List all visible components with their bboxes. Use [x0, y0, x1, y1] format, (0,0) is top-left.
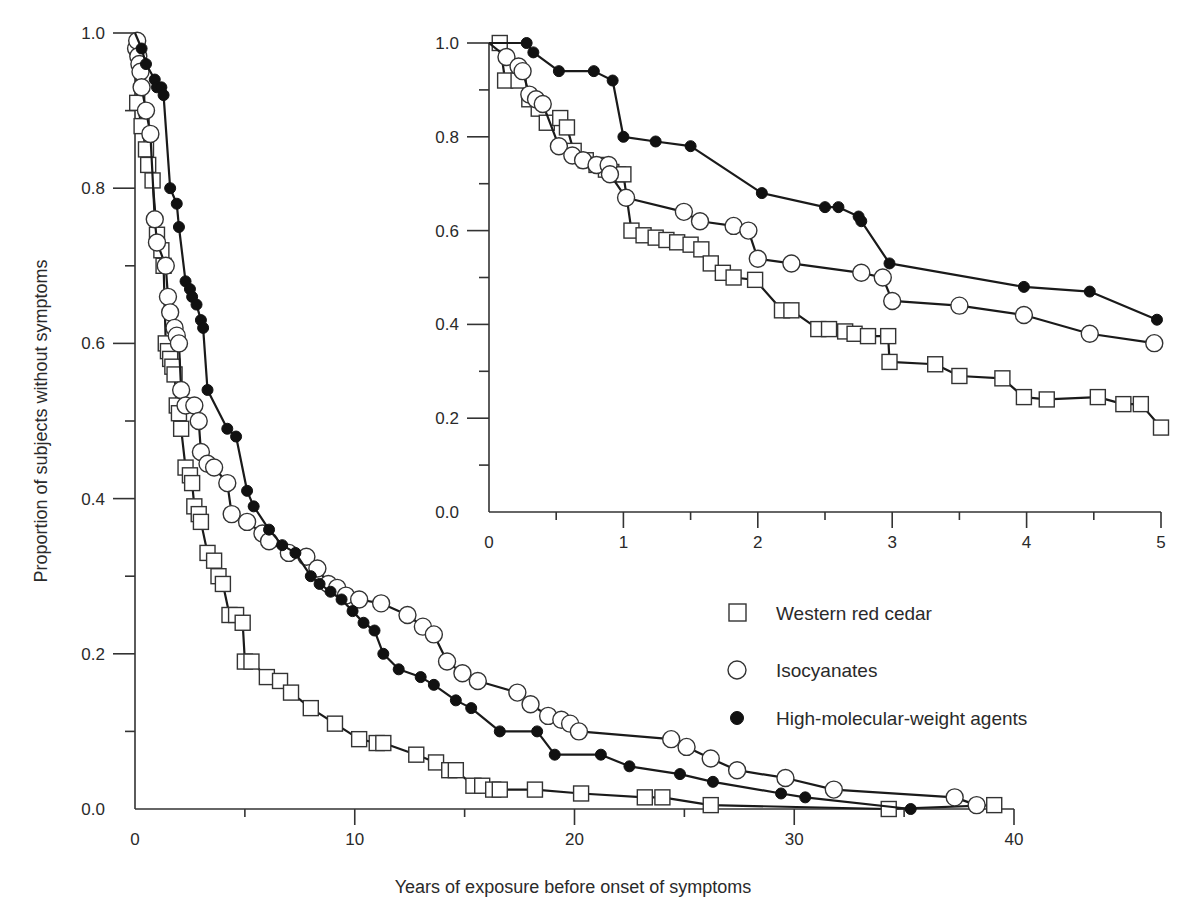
data-point-square	[448, 763, 463, 778]
data-point-dot	[264, 524, 275, 535]
open-circle-icon	[728, 661, 746, 679]
data-point-circle	[142, 125, 159, 142]
data-point-dot	[466, 703, 477, 714]
data-point-square	[995, 371, 1010, 386]
x-tick-label: 40	[1005, 830, 1024, 849]
data-point-dot	[248, 501, 259, 512]
data-point-circle	[951, 297, 968, 314]
data-point-dot	[428, 679, 439, 690]
data-point-dot	[776, 788, 787, 799]
data-point-dot	[1084, 286, 1095, 297]
data-point-circle	[509, 684, 526, 701]
data-point-square	[303, 701, 318, 716]
data-point-circle	[219, 475, 236, 492]
data-point-circle	[874, 269, 891, 286]
data-point-dot	[756, 188, 767, 199]
series-line	[489, 43, 1157, 320]
legend-item-western-red-cedar: Western red cedar	[729, 603, 933, 624]
legend-label: Western red cedar	[776, 603, 933, 624]
data-point-dot	[856, 216, 867, 227]
data-point-dot	[674, 769, 685, 780]
data-point-circle	[190, 413, 207, 430]
data-point-dot	[820, 202, 831, 213]
data-point-circle	[425, 626, 442, 643]
data-point-dot	[171, 198, 182, 209]
data-point-dot	[305, 571, 316, 582]
series-isocyanates	[489, 43, 1163, 352]
data-point-dot	[528, 47, 539, 58]
data-point-square	[174, 421, 189, 436]
y-tick-label: 0.0	[435, 503, 459, 522]
data-point-circle	[692, 213, 709, 230]
data-point-square	[284, 685, 299, 700]
main-y-ticks: 0.00.20.40.60.81.0	[81, 24, 135, 819]
inset-x-axis: 012345	[484, 512, 1165, 552]
main-plot: 0.00.20.40.60.81.0 010203040 Proportion …	[31, 24, 1023, 897]
data-point-dot	[314, 578, 325, 589]
data-point-circle	[173, 381, 190, 398]
inset-y-ticks: 0.00.20.40.60.81.0	[435, 34, 489, 522]
data-point-square	[376, 736, 391, 751]
data-point-square	[1016, 390, 1031, 405]
data-point-square	[726, 270, 741, 285]
data-point-circle	[439, 653, 456, 670]
data-point-circle	[853, 264, 870, 281]
data-point-square	[655, 790, 670, 805]
y-tick-label: 0.2	[81, 645, 105, 664]
data-point-circle	[133, 79, 150, 96]
y-tick-label: 0.2	[435, 409, 459, 428]
data-point-circle	[825, 781, 842, 798]
legend-item-high-molecular-weight-agents: High-molecular-weight agents	[731, 708, 1028, 729]
data-point-dot	[884, 258, 895, 269]
x-tick-label: 10	[345, 830, 364, 849]
data-point-dot	[336, 594, 347, 605]
data-point-circle	[1081, 325, 1098, 342]
data-point-dot	[1151, 314, 1162, 325]
data-point-dot	[140, 59, 151, 70]
data-point-circle	[1015, 307, 1032, 324]
x-tick-label: 0	[130, 830, 139, 849]
x-tick-label: 0	[484, 533, 493, 552]
data-point-dot	[588, 66, 599, 77]
data-point-square	[822, 322, 837, 337]
data-point-dot	[242, 485, 253, 496]
data-point-dot	[198, 322, 209, 333]
data-point-circle	[1146, 335, 1163, 352]
data-point-square	[492, 782, 507, 797]
data-point-square	[694, 242, 709, 257]
data-point-circle	[783, 255, 800, 272]
data-point-dot	[707, 776, 718, 787]
data-point-circle	[469, 672, 486, 689]
data-point-circle	[148, 234, 165, 251]
data-point-circle	[206, 459, 223, 476]
data-point-square	[207, 553, 222, 568]
data-point-circle	[663, 731, 680, 748]
data-point-dot	[158, 90, 169, 101]
data-point-square	[244, 654, 259, 669]
inset-y-axis: 0.00.20.40.60.81.0	[435, 34, 489, 522]
data-point-dot	[290, 547, 301, 558]
open-square-icon	[729, 604, 746, 621]
data-point-dot	[800, 792, 811, 803]
data-point-dot	[532, 726, 543, 737]
data-point-square	[637, 790, 652, 805]
data-point-circle	[675, 203, 692, 220]
data-point-circle	[534, 95, 551, 112]
data-point-square	[327, 716, 342, 731]
data-point-square	[881, 329, 896, 344]
survival-figure: 0.00.20.40.60.81.0 010203040 Proportion …	[0, 0, 1196, 922]
data-point-circle	[186, 397, 203, 414]
x-tick-label: 5	[1156, 533, 1165, 552]
data-point-dot	[277, 540, 288, 551]
y-tick-label: 0.4	[81, 490, 105, 509]
inset-series-group	[489, 36, 1169, 436]
y-tick-label: 0.6	[435, 222, 459, 241]
legend: Western red cedar Isocyanates High-molec…	[728, 603, 1027, 729]
data-point-circle	[514, 63, 531, 80]
series-line	[489, 43, 1161, 428]
series-high-molecular-weight-agents	[489, 38, 1162, 326]
data-point-circle	[162, 304, 179, 321]
data-point-circle	[454, 665, 471, 682]
data-point-circle	[522, 696, 539, 713]
series-line	[489, 43, 1154, 343]
